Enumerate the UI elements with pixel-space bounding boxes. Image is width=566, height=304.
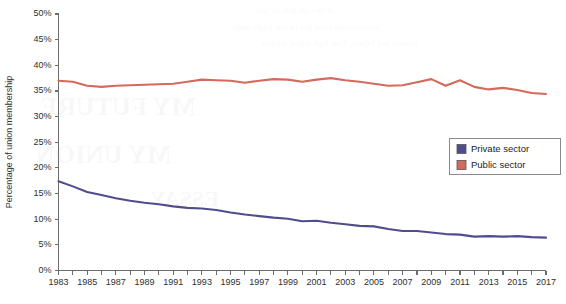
x-axis-tick-label: 2005 — [364, 277, 384, 287]
x-axis-tick-label: 2007 — [393, 277, 413, 287]
x-axis-tick-label: 1993 — [192, 277, 212, 287]
y-axis-tick-label: 30% — [33, 111, 51, 121]
y-axis-tick-label: 20% — [33, 162, 51, 172]
x-axis-ticks — [59, 271, 547, 275]
legend-label-private-sector[interactable]: Private sector — [471, 143, 529, 154]
x-axis-tick-label: 1991 — [163, 277, 183, 287]
y-axis-tick-label: 15% — [33, 188, 51, 198]
x-axis-tick-label: 2011 — [450, 277, 469, 287]
legend-label-public-sector[interactable]: Public sector — [471, 159, 525, 170]
y-axis-tick-label: 0% — [38, 265, 51, 275]
x-axis-tick-label: 2003 — [335, 277, 355, 287]
x-axis-tick-label: 1985 — [77, 277, 97, 287]
y-axis-title: Percentage of union membership — [4, 76, 14, 209]
plot-area: 0%5%10%15%20%25%30%35%40%45%50% 19831985… — [0, 0, 566, 304]
x-axis-tick-label: 2001 — [307, 277, 327, 287]
y-axis-tick-label: 40% — [33, 60, 51, 70]
series-line-private-sector — [59, 181, 547, 237]
legend-swatch-private-sector[interactable] — [457, 145, 466, 154]
x-axis-tick-label: 1989 — [135, 277, 155, 287]
x-axis-tick-label: 2015 — [507, 277, 527, 287]
x-axis-tick-label: 1999 — [278, 277, 298, 287]
x-axis-tick-label: 2009 — [421, 277, 441, 287]
legend-swatch-public-sector[interactable] — [457, 161, 466, 170]
y-axis-tick-label: 10% — [33, 214, 51, 224]
y-axis-ticks — [55, 14, 59, 271]
y-axis-tick-labels: 0%5%10%15%20%25%30%35%40%45%50% — [33, 8, 51, 275]
x-axis-tick-label: 2017 — [536, 277, 556, 287]
y-axis-tick-label: 25% — [33, 137, 51, 147]
x-axis-tick-label: 1997 — [249, 277, 269, 287]
x-axis-tick-labels: 1983198519871989199119931995199719992001… — [48, 277, 556, 287]
y-axis-tick-label: 45% — [33, 34, 51, 44]
chart-legend[interactable]: Private sectorPublic sector — [450, 139, 561, 175]
y-axis-tick-label: 35% — [33, 85, 51, 95]
x-axis-tick-label: 1995 — [221, 277, 241, 287]
y-axis-tick-label: 50% — [33, 8, 51, 18]
y-axis-tick-label: 5% — [38, 239, 51, 249]
x-axis-tick-label: 2013 — [479, 277, 499, 287]
union-membership-line-chart: of the right path for you. you, consider… — [0, 0, 566, 304]
x-axis-tick-label: 1983 — [48, 277, 68, 287]
series-line-public-sector — [59, 78, 547, 94]
x-axis-tick-label: 1987 — [106, 277, 126, 287]
